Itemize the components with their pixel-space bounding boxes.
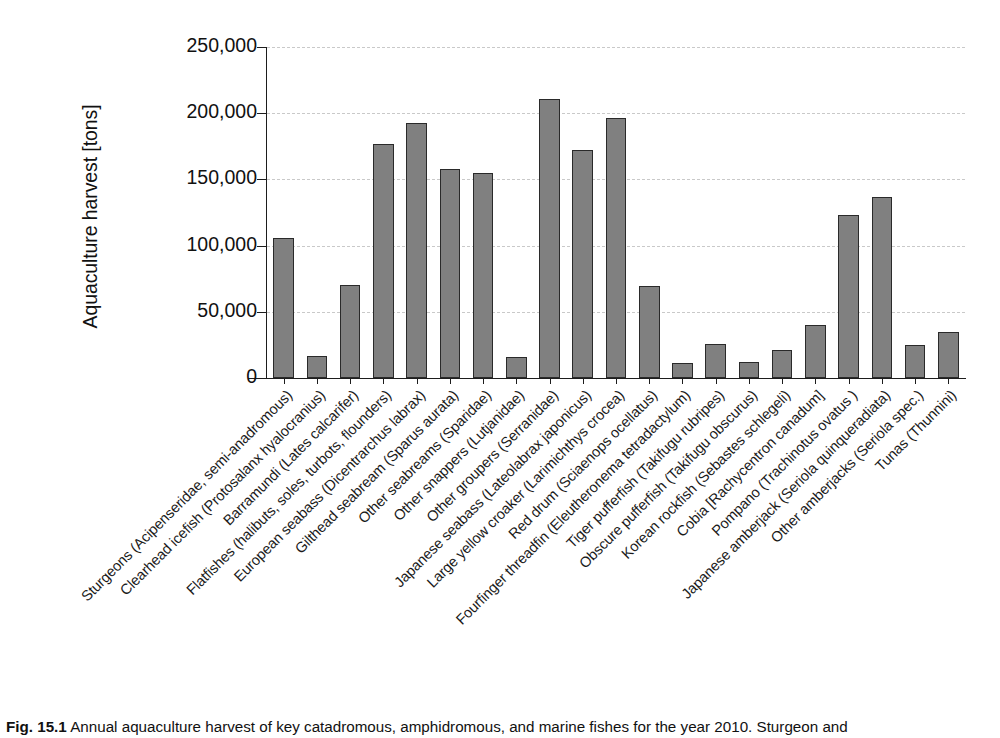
x-tick-mark (948, 378, 949, 384)
x-tick-mark (583, 378, 584, 384)
x-tick-mark (616, 378, 617, 384)
y-tick-mark (257, 113, 267, 114)
y-tick-label: 150,000 (133, 166, 257, 189)
bar[interactable] (606, 118, 627, 378)
bar[interactable] (772, 350, 793, 378)
bar[interactable] (506, 357, 527, 378)
y-tick-label: 200,000 (133, 100, 257, 123)
x-tick-mark (350, 378, 351, 384)
bar[interactable] (905, 345, 926, 378)
bar[interactable] (440, 169, 461, 378)
x-tick-mark (915, 378, 916, 384)
x-axis-line (248, 378, 966, 379)
bar[interactable] (705, 344, 726, 378)
x-tick-mark (417, 378, 418, 384)
bar[interactable] (805, 325, 826, 378)
bar-series (267, 47, 965, 378)
bar[interactable] (838, 215, 859, 378)
bar[interactable] (307, 356, 328, 378)
y-tick-label: 250,000 (133, 34, 257, 57)
bar[interactable] (872, 197, 893, 378)
x-tick-mark (550, 378, 551, 384)
x-tick-mark (383, 378, 384, 384)
x-tick-mark (516, 378, 517, 384)
figure-caption: Fig. 15.1 Annual aquaculture harvest of … (6, 716, 996, 737)
bar[interactable] (406, 123, 427, 378)
x-tick-mark (849, 378, 850, 384)
y-tick-label: 50,000 (133, 299, 257, 322)
figure-container: Aquaculture harvest [tons] 050,000100,00… (0, 0, 1000, 738)
x-tick-mark (284, 378, 285, 384)
x-tick-mark (882, 378, 883, 384)
y-tick-mark (257, 179, 267, 180)
y-tick-label: 0 (133, 365, 257, 388)
x-tick-mark (749, 378, 750, 384)
x-tick-mark (317, 378, 318, 384)
x-tick-mark (782, 378, 783, 384)
bar[interactable] (672, 363, 693, 378)
y-tick-mark (257, 312, 267, 313)
y-tick-mark (257, 47, 267, 48)
bar[interactable] (373, 144, 394, 378)
bar[interactable] (473, 173, 494, 378)
figure-caption-text: Annual aquaculture harvest of key catadr… (70, 718, 848, 735)
y-tick-label: 100,000 (133, 233, 257, 256)
x-tick-mark (716, 378, 717, 384)
y-tick-mark (257, 246, 267, 247)
x-tick-mark (450, 378, 451, 384)
bar[interactable] (273, 238, 294, 378)
x-tick-mark (815, 378, 816, 384)
x-tick-mark (682, 378, 683, 384)
bar[interactable] (340, 285, 361, 378)
x-tick-mark (649, 378, 650, 384)
bar[interactable] (639, 286, 660, 378)
bar[interactable] (938, 332, 959, 378)
bar[interactable] (539, 99, 560, 378)
bar[interactable] (739, 362, 760, 378)
bar[interactable] (572, 150, 593, 378)
y-tick-mark (257, 378, 267, 379)
figure-number: Fig. 15.1 (6, 718, 67, 735)
x-tick-mark (483, 378, 484, 384)
